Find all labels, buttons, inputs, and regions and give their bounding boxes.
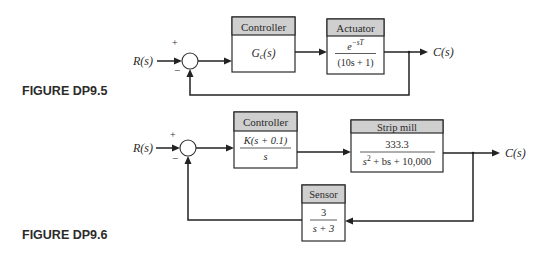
arrow-icon — [492, 150, 500, 157]
block-title: Controller — [243, 116, 289, 128]
block-title: Actuator — [336, 22, 375, 34]
actuator-block: Actuator e−sT (10s + 1) — [327, 19, 384, 74]
arrow-icon — [224, 58, 232, 65]
sum-sign-plus: + — [172, 37, 178, 48]
denominator: s + 3 — [313, 223, 335, 234]
arrow-icon — [420, 49, 428, 56]
denominator: s2 + bs + 10,000 — [363, 154, 431, 167]
feedback-wire — [188, 161, 302, 220]
input-label: R(s) — [132, 54, 153, 68]
input-label: R(s) — [132, 141, 153, 155]
denominator: (10s + 1) — [337, 57, 373, 69]
output-label: C(s) — [433, 45, 454, 59]
arrow-icon — [185, 156, 192, 164]
output-label: C(s) — [505, 146, 526, 160]
figure-label: FIGURE DP9.5 — [22, 84, 107, 98]
numerator: K(s + 0.1) — [243, 135, 288, 147]
figure-dp9-6: FIGURE DP9.6 R(s) + − Controller K(s + 0… — [22, 112, 526, 242]
block-title: Controller — [241, 21, 287, 33]
sum-sign-plus: + — [170, 129, 176, 140]
arrow-icon — [226, 145, 234, 152]
transfer-function: Gc(s) — [251, 47, 275, 61]
controller-block: Controller K(s + 0.1) s — [234, 112, 297, 168]
numerator: 3 — [321, 207, 326, 218]
sum-sign-minus: − — [172, 152, 178, 164]
arrow-icon — [343, 149, 351, 156]
arrow-icon — [345, 218, 353, 225]
figure-dp9-5: FIGURE DP9.5 R(s) + − Controller Gc(s) A… — [22, 17, 454, 98]
block-diagrams: FIGURE DP9.5 R(s) + − Controller Gc(s) A… — [0, 0, 543, 260]
numerator: 333.3 — [385, 139, 409, 150]
block-title: Strip mill — [377, 122, 417, 133]
arrow-icon — [172, 145, 180, 152]
summing-junction — [182, 53, 198, 69]
summing-junction — [180, 140, 196, 156]
arrow-icon — [187, 69, 194, 77]
sum-sign-minus: − — [174, 64, 180, 76]
arrow-icon — [319, 49, 327, 56]
figure-label: FIGURE DP9.6 — [22, 228, 107, 242]
block-title: Sensor — [309, 189, 338, 200]
denominator: s — [263, 151, 267, 162]
controller-block: Controller Gc(s) — [232, 17, 295, 72]
sensor-block: Sensor 3 s + 3 — [302, 185, 345, 241]
strip-mill-block: Strip mill 333.3 s2 + bs + 10,000 — [351, 120, 443, 172]
